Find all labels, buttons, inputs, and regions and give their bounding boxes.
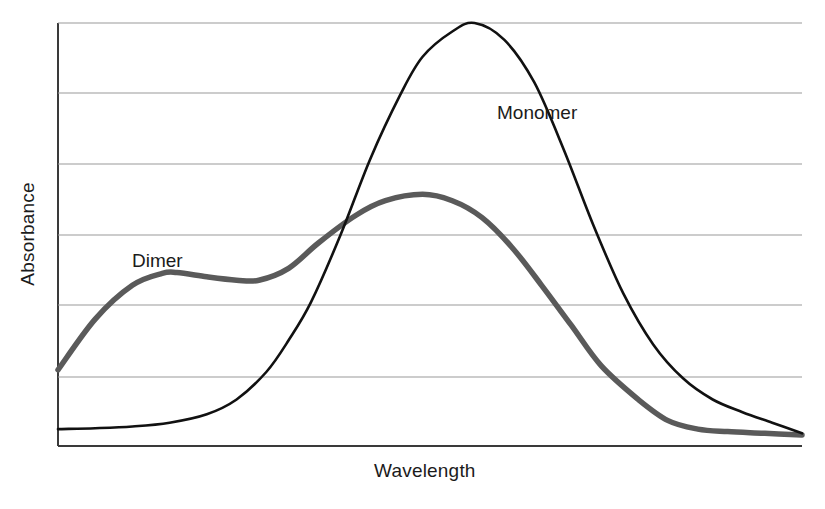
series-label-monomer: Monomer bbox=[497, 102, 577, 124]
plot-canvas bbox=[0, 0, 825, 509]
series-label-dimer: Dimer bbox=[132, 250, 183, 272]
gridlines bbox=[58, 23, 802, 377]
series-line-monomer bbox=[58, 23, 802, 434]
y-axis-title: Absorbance bbox=[17, 174, 39, 294]
series-line-dimer bbox=[58, 194, 802, 435]
x-axis-title: Wavelength bbox=[374, 460, 476, 482]
absorbance-spectrum-figure: Absorbance Wavelength Monomer Dimer bbox=[0, 0, 825, 509]
